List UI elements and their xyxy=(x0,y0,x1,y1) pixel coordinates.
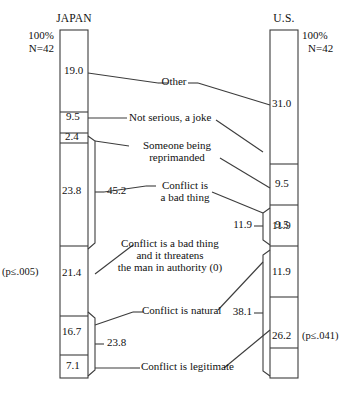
japan-bracket-45-2 xyxy=(88,136,95,249)
us-bar-outline xyxy=(270,30,298,378)
leader-japan-natural xyxy=(95,312,133,325)
japan-segment-value-natural: 16.7 xyxy=(62,326,81,338)
japan-segment-value-joke: 9.5 xyxy=(66,111,80,123)
us-bracket-total-11-9: 11.9 xyxy=(214,219,252,231)
leader-japan-other xyxy=(88,73,158,83)
leader-us-repri xyxy=(220,158,270,188)
japan-segment-value-bad-thing: 23.8 xyxy=(62,185,81,197)
us-total-n: N=42 xyxy=(308,43,333,55)
us-bracket-38-1 xyxy=(263,250,270,376)
category-label-bad-thing-line1: Conflict is xyxy=(157,180,213,192)
us-p-value: (p≤.041) xyxy=(302,330,338,341)
category-label-reprimanded-line1: Someone being xyxy=(134,140,220,152)
leader-us-bad xyxy=(212,192,263,213)
japan-segment-value-threatens: 21.4 xyxy=(62,267,81,279)
category-label-legitimate: Conflict is legitimate xyxy=(141,361,234,373)
japan-bracket-total-23-8: 23.8 xyxy=(107,337,126,349)
category-label-threatens-line1: Conflict is a bad thing xyxy=(100,238,240,250)
japan-column-header: JAPAN xyxy=(48,12,100,24)
category-label-joke: Not serious, a joke xyxy=(129,112,211,124)
japan-p-value: (p≤.005) xyxy=(2,266,38,277)
japan-total-n: N=42 xyxy=(6,43,54,55)
us-segment-value-threatens: 11.9 xyxy=(272,266,291,278)
us-column-header: U.S. xyxy=(258,12,310,24)
japan-total-percent: 100% xyxy=(6,30,54,42)
us-segment-value-bad-thing: 11.9 xyxy=(272,220,291,232)
category-label-threatens-line2: and it threatens xyxy=(100,250,240,262)
leader-us-joke xyxy=(216,120,263,152)
japan-segment-value-other: 19.0 xyxy=(64,65,83,77)
us-segment-value-other: 31.0 xyxy=(272,98,291,110)
leader-japan-repri xyxy=(95,141,129,146)
chart-figure: JAPAN 100% N=42 (p≤.005) 19.0 9.5 2.4 23… xyxy=(0,0,348,399)
category-label-natural: Conflict is natural xyxy=(142,305,221,317)
us-bracket-11-9 xyxy=(263,208,270,245)
leader-us-other xyxy=(198,83,270,105)
category-label-other: Other xyxy=(158,76,190,88)
category-label-threatens-line3: the man in authority (0) xyxy=(100,262,240,274)
us-total-percent: 100% xyxy=(302,30,328,42)
japan-segment-value-reprimanded: 2.4 xyxy=(65,131,79,143)
us-segment-value-natural: 26.2 xyxy=(272,330,291,342)
japan-segment-value-legitimate: 7.1 xyxy=(66,360,80,372)
japan-bracket-total-45-2: 45.2 xyxy=(107,185,126,197)
japan-bracket-23-8 xyxy=(88,312,95,376)
category-label-bad-thing-line2: a bad thing xyxy=(157,192,213,204)
us-segment-value-joke: 9.5 xyxy=(275,178,289,190)
category-label-reprimanded-line2: reprimanded xyxy=(134,152,220,164)
